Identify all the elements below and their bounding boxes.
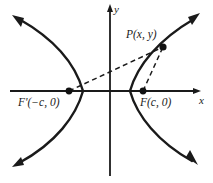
focal-radii-group	[69, 47, 163, 91]
y-axis-label: y	[114, 4, 119, 15]
diagram-canvas	[0, 0, 213, 183]
left-branch-upper	[19, 19, 83, 91]
right-branch-upper-arrowhead	[188, 13, 200, 25]
point-p-dot	[159, 43, 166, 50]
hyperbola-diagram: y x P(x, y) F'(−c, 0) F(c, 0)	[0, 0, 213, 183]
focus-left-label: F'(−c, 0)	[18, 97, 60, 109]
x-axis-label: x	[199, 95, 204, 106]
focal-radius-right-segment	[143, 47, 163, 91]
focus-right-label: F(c, 0)	[140, 97, 171, 109]
focus-right-dot	[140, 88, 147, 95]
right-branch-lower-arrowhead	[186, 150, 198, 165]
y-axis-arrowhead	[107, 4, 113, 12]
focal-radius-left-segment	[69, 47, 163, 91]
point-p-label: P(x, y)	[126, 29, 157, 41]
focus-left-dot	[66, 88, 73, 95]
branch-arrowheads	[12, 13, 200, 167]
left-branch-upper-arrowhead	[12, 15, 24, 27]
left-branch-lower-arrowhead	[12, 157, 24, 167]
